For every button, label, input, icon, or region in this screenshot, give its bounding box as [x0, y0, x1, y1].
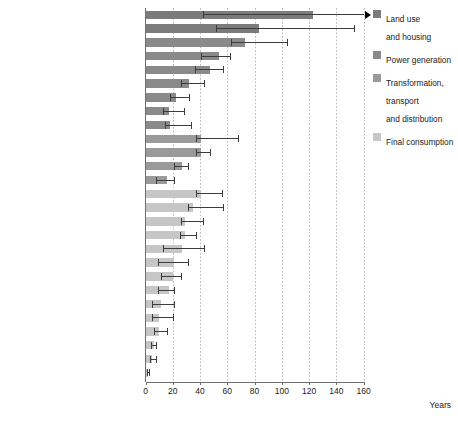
error-bar-cap-low	[161, 273, 162, 280]
legend-item: Final consumption	[373, 131, 458, 149]
error-bar	[180, 235, 196, 236]
chart-row: Aircraft	[146, 228, 364, 242]
tick-label-100: 100	[275, 386, 289, 396]
tick-140	[336, 382, 337, 385]
error-bar-cap-low	[180, 232, 181, 239]
tick-label-40: 40	[195, 386, 204, 396]
error-bar-cap-low	[195, 66, 196, 73]
error-bar-cap-low	[165, 122, 166, 129]
error-bar-cap-high	[188, 259, 189, 266]
error-bar-cap-high	[204, 80, 205, 87]
legend-item: Land use and housing	[373, 8, 458, 44]
error-bar-cap-high	[174, 287, 175, 294]
error-bar-cap-low	[196, 135, 197, 142]
error-bar-cap-high	[156, 356, 157, 363]
error-bar-cap-high	[191, 122, 192, 129]
tick-0	[146, 382, 147, 385]
chart-row: Onshore wind turbines	[146, 104, 364, 118]
tick-label-0: 0	[143, 386, 148, 396]
error-bar-cap-low	[188, 204, 189, 211]
chart-row: Light bulbs (incandescent)	[146, 366, 364, 380]
error-bar	[196, 193, 222, 194]
legend-label: Transformation, transport and distributi…	[386, 78, 444, 124]
error-bar	[152, 304, 174, 305]
error-bar-cap-low	[170, 94, 171, 101]
chart-row: Petrochemical plant	[146, 215, 364, 229]
error-bar-cap-high	[230, 53, 231, 60]
chart-row: Offshore wind turbines	[146, 91, 364, 105]
error-bar-cap-low	[151, 342, 152, 349]
tick-label-80: 80	[250, 386, 259, 396]
error-bar-cap-high	[238, 135, 239, 142]
error-bar	[196, 138, 238, 139]
error-bar-cap-high	[167, 328, 168, 335]
error-bar-cap-low	[152, 301, 153, 308]
error-bar-cap-high	[223, 204, 224, 211]
error-bar-cap-low	[154, 328, 155, 335]
chart-row: Large hydropower plant	[146, 36, 364, 50]
error-bar-cap-high	[174, 177, 175, 184]
error-bar-cap-high	[174, 301, 175, 308]
chart-row: Transmission and distribution networks	[146, 132, 364, 146]
error-bar-cap-low	[174, 163, 175, 170]
error-bar-cap-high	[188, 163, 189, 170]
chart-row: Nuclear power plant	[146, 49, 364, 63]
tick-160	[364, 382, 365, 385]
tick-120	[309, 382, 310, 385]
tick-100	[282, 382, 283, 385]
error-bar	[216, 28, 354, 29]
gridline-160	[364, 8, 365, 382]
error-bar-cap-high	[203, 218, 204, 225]
chart-row: Light bulbs (fluorescent)	[146, 338, 364, 352]
bar	[146, 203, 194, 211]
error-bar	[203, 14, 364, 15]
error-bar-cap-high	[173, 314, 174, 321]
error-bar-arrow	[365, 11, 371, 19]
error-bar-cap-high	[287, 39, 288, 46]
legend-item: Transformation, transport and distributi…	[373, 72, 458, 126]
tick-label-160: 160	[357, 386, 371, 396]
tick-20	[173, 382, 174, 385]
chart-row: Cement plant	[146, 187, 364, 201]
error-bar-cap-low	[216, 25, 217, 32]
error-bar	[201, 56, 230, 57]
bar	[146, 190, 202, 198]
error-bar-cap-low	[158, 259, 159, 266]
error-bar-cap-high	[196, 232, 197, 239]
legend: Land use and housingPower generationTran…	[373, 8, 458, 154]
tick-label-120: 120	[302, 386, 316, 396]
legend-swatch-icon	[373, 51, 381, 59]
bar	[146, 38, 245, 46]
error-bar	[195, 69, 224, 70]
error-bar	[196, 152, 210, 153]
chart-row: Coal-fired power plant	[146, 63, 364, 77]
tick-label-60: 60	[223, 386, 232, 396]
error-bar	[158, 290, 174, 291]
chart-row: Household appliances	[146, 297, 364, 311]
bar	[146, 148, 202, 156]
chart-row: Refueling stations	[146, 173, 364, 187]
error-bar-cap-high	[210, 149, 211, 156]
error-bar	[181, 83, 204, 84]
legend-swatch-icon	[373, 133, 381, 141]
error-bar-cap-low	[196, 190, 197, 197]
chart-row: Office equipment	[146, 352, 364, 366]
error-bar	[161, 276, 181, 277]
error-bar	[163, 248, 204, 249]
chart-row: Consumer electronics	[146, 325, 364, 339]
error-bar-cap-low	[147, 369, 148, 376]
chart-row: Residential space heating and cooling	[146, 256, 364, 270]
chart-row: Passenger cars	[146, 283, 364, 297]
error-bar-cap-low	[152, 314, 153, 321]
error-bar-cap-high	[354, 25, 355, 32]
error-bar-cap-high	[156, 342, 157, 349]
chart-row: Combined-cycle gas turbine plant	[146, 77, 364, 91]
chart-row: Residential water heating	[146, 311, 364, 325]
chart-row: Pipelines	[146, 146, 364, 160]
error-bar	[174, 166, 188, 167]
error-bar-cap-high	[223, 66, 224, 73]
error-bar-cap-low	[201, 53, 202, 60]
error-bar-cap-low	[181, 80, 182, 87]
chart-row: Commercial heating and cooling	[146, 270, 364, 284]
error-bar-cap-low	[196, 149, 197, 156]
